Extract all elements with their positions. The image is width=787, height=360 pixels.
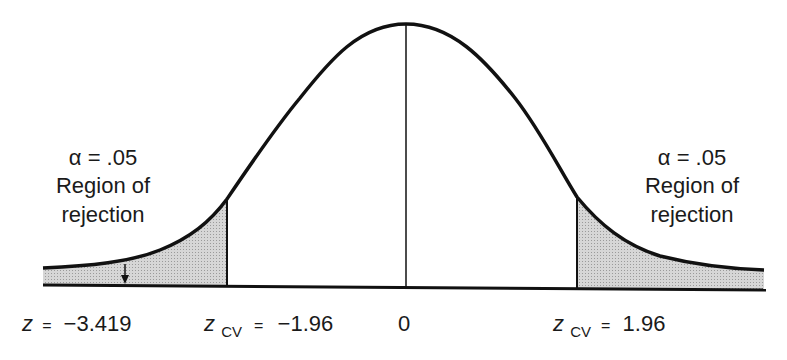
center-zero-label: 0 bbox=[398, 311, 410, 336]
left-alpha-label: α = .05 bbox=[69, 145, 137, 170]
right-region-line2: rejection bbox=[650, 202, 733, 227]
right-alpha-label: α = .05 bbox=[658, 145, 726, 170]
left-region-line1: Region of bbox=[56, 173, 151, 198]
left-critical-value-label: z CV = −1.96 bbox=[203, 311, 333, 342]
observed-z-label: z = −3.419 bbox=[21, 311, 132, 336]
left-region-line2: rejection bbox=[61, 202, 144, 227]
right-region-line1: Region of bbox=[645, 173, 740, 198]
normal-distribution-diagram: α = .05 Region of rejection α = .05 Regi… bbox=[0, 0, 787, 360]
right-critical-value-label: z CV = 1.96 bbox=[552, 311, 665, 342]
bell-curve bbox=[43, 24, 764, 270]
